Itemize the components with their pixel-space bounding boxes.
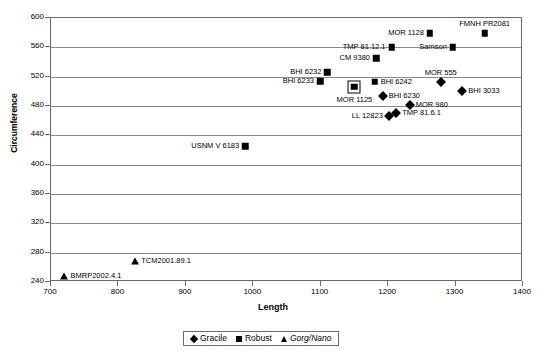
data-point-triangle[interactable] bbox=[131, 257, 139, 264]
data-point-square[interactable] bbox=[427, 30, 434, 37]
legend-label: Gracile bbox=[200, 334, 227, 343]
data-point-label: MOR 555 bbox=[425, 69, 457, 77]
data-point-label: Samson bbox=[419, 43, 447, 51]
data-point-square[interactable] bbox=[324, 69, 331, 76]
data-point-label: BHI 6232 bbox=[290, 68, 321, 76]
data-point-diamond[interactable] bbox=[457, 86, 467, 96]
y-tick-label: 360 bbox=[0, 189, 44, 197]
gridline bbox=[51, 106, 521, 107]
data-point-label: TMP 81.12.1 bbox=[343, 43, 386, 51]
x-tick-mark bbox=[117, 281, 118, 286]
x-tick-mark bbox=[50, 281, 51, 286]
x-tick-label: 1200 bbox=[367, 288, 407, 296]
y-tick-label: 480 bbox=[0, 101, 44, 109]
x-tick-mark bbox=[252, 281, 253, 286]
legend-item[interactable]: Robust bbox=[236, 334, 272, 343]
y-tick-label: 520 bbox=[0, 72, 44, 80]
legend-label: Robust bbox=[245, 334, 272, 343]
triangle-icon bbox=[281, 336, 287, 342]
y-tick-label: 400 bbox=[0, 160, 44, 168]
x-tick-label: 900 bbox=[165, 288, 205, 296]
y-tick-label: 600 bbox=[0, 13, 44, 21]
data-point-diamond[interactable] bbox=[436, 77, 446, 87]
data-point-label: FMNH PR2081 bbox=[459, 20, 510, 28]
data-point-label: LL 12823 bbox=[352, 112, 383, 120]
x-tick-label: 1300 bbox=[435, 288, 475, 296]
legend-label: Gorg/Nano bbox=[290, 334, 332, 343]
data-point-label: MOR 1128 bbox=[388, 29, 424, 37]
data-point-square[interactable] bbox=[450, 44, 457, 51]
x-tick-label: 1400 bbox=[502, 288, 542, 296]
data-point-label: TCM2001.89.1 bbox=[141, 257, 191, 265]
y-tick-label: 560 bbox=[0, 42, 44, 50]
data-point-label: BHI 6233 bbox=[283, 77, 314, 85]
square-icon bbox=[236, 336, 242, 342]
gridline bbox=[51, 135, 521, 136]
y-tick-label: 320 bbox=[0, 218, 44, 226]
x-tick-label: 1100 bbox=[300, 288, 340, 296]
legend-item[interactable]: Gracile bbox=[191, 334, 227, 343]
gridline bbox=[51, 223, 521, 224]
data-point-label: TMP 81.6.1 bbox=[402, 109, 441, 117]
x-tick-label: 1000 bbox=[232, 288, 272, 296]
data-point-label: USNM V 6183 bbox=[191, 142, 239, 150]
data-point-square[interactable] bbox=[373, 55, 380, 62]
plot-area: MOR 555BHI 3033BHI 6230MOR 980LL 12823TM… bbox=[50, 17, 522, 281]
data-point-square[interactable] bbox=[481, 30, 488, 37]
scatter-chart: Circumference 24028032036040044048052056… bbox=[0, 0, 546, 357]
data-point-label: CM 9380 bbox=[340, 54, 370, 62]
chart-legend: GracileRobustGorg/Nano bbox=[183, 331, 339, 346]
x-tick-mark bbox=[387, 281, 388, 286]
gridline bbox=[51, 194, 521, 195]
x-tick-label: 800 bbox=[97, 288, 137, 296]
x-tick-mark bbox=[320, 281, 321, 286]
data-point-label: BHI 6242 bbox=[381, 78, 412, 86]
legend-item[interactable]: Gorg/Nano bbox=[281, 334, 332, 343]
y-tick-label: 240 bbox=[0, 277, 44, 285]
x-axis-title: Length bbox=[0, 302, 546, 312]
data-point-square[interactable] bbox=[371, 79, 378, 86]
diamond-icon bbox=[190, 334, 198, 342]
x-tick-mark bbox=[522, 281, 523, 286]
data-point-square[interactable] bbox=[388, 44, 395, 51]
data-point-label: MOR 1125 bbox=[337, 96, 373, 104]
x-tick-mark bbox=[185, 281, 186, 286]
data-point-label: BHI 6230 bbox=[389, 92, 420, 100]
data-point-label: BHI 3033 bbox=[468, 87, 499, 95]
x-tick-label: 700 bbox=[30, 288, 70, 296]
data-point-diamond[interactable] bbox=[378, 92, 388, 102]
gridline bbox=[51, 165, 521, 166]
gridline bbox=[51, 253, 521, 254]
data-point-square[interactable] bbox=[317, 78, 324, 85]
data-point-triangle[interactable] bbox=[60, 273, 68, 280]
y-tick-label: 280 bbox=[0, 248, 44, 256]
data-point-label: BMRP2002.4.1 bbox=[70, 272, 121, 280]
data-point-square[interactable] bbox=[351, 84, 358, 91]
data-point-square[interactable] bbox=[242, 143, 249, 150]
x-tick-mark bbox=[455, 281, 456, 286]
y-tick-label: 440 bbox=[0, 130, 44, 138]
